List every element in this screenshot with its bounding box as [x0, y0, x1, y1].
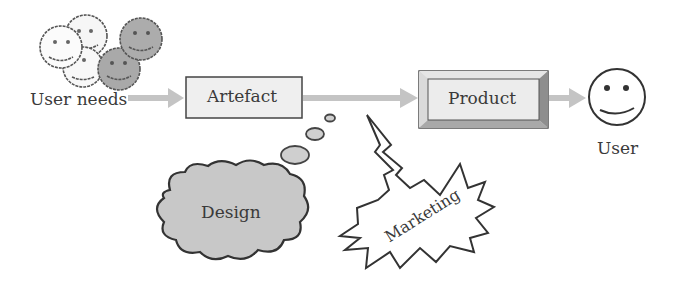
- arrow-artefact-to-product: [303, 88, 418, 108]
- arrow-user-needs-to-artefact: [128, 88, 184, 108]
- smiley-face-icon: [589, 69, 645, 125]
- user-needs-label: User needs: [30, 89, 127, 109]
- user-label: User: [597, 138, 638, 158]
- thought-bubbles: [281, 115, 335, 165]
- group-of-smiley-faces-icon: [40, 15, 162, 90]
- product-label: Product: [448, 88, 516, 108]
- diagram-canvas: User needs Artefact Product User Design …: [0, 0, 682, 293]
- design-label: Design: [201, 202, 261, 222]
- diagram-graphics: [0, 0, 682, 293]
- arrow-product-to-user: [549, 88, 586, 108]
- marketing-starburst: [340, 115, 494, 268]
- artefact-label: Artefact: [207, 86, 277, 106]
